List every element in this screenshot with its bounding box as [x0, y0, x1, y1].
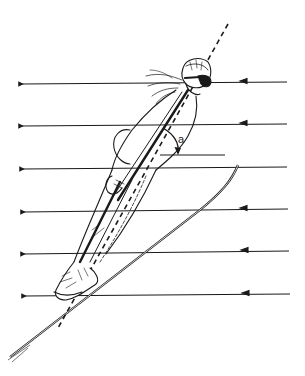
- ski-jumper-figure: [54, 59, 211, 300]
- airflow-arrows: [21, 79, 290, 297]
- ski: [8, 165, 238, 362]
- ski-jumper-diagram: [0, 0, 305, 376]
- diagram-canvas: a: [0, 0, 305, 376]
- angle-label: a: [178, 133, 184, 145]
